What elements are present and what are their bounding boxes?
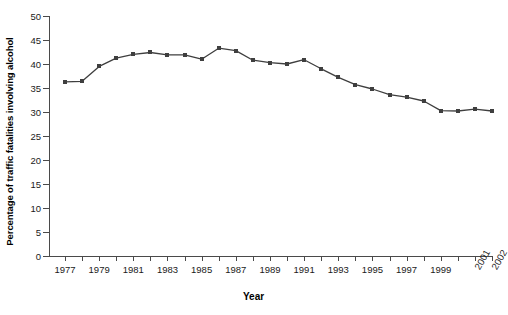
data-point — [268, 61, 272, 65]
x-axis-title: Year — [243, 291, 264, 302]
data-point — [148, 50, 152, 54]
y-axis-tick — [43, 16, 49, 17]
data-point — [439, 109, 443, 113]
y-axis-tick-label: 25 — [5, 131, 41, 142]
y-axis-tick-label: 30 — [5, 107, 41, 118]
x-axis-tick — [372, 256, 373, 261]
x-axis-tick-label: 1981 — [123, 264, 144, 275]
y-axis-tick-label: 35 — [5, 83, 41, 94]
x-axis-tick-label: 1983 — [157, 264, 178, 275]
y-axis-tick-label: 20 — [5, 155, 41, 166]
data-point — [165, 53, 169, 57]
y-axis-tick — [43, 64, 49, 65]
x-axis-tick — [287, 256, 288, 261]
x-axis-tick — [253, 256, 254, 261]
y-axis-tick-label: 50 — [5, 11, 41, 22]
data-point — [114, 56, 118, 60]
data-point — [97, 64, 101, 68]
x-axis-tick-label: 1987 — [225, 264, 246, 275]
data-point — [285, 62, 289, 66]
x-axis-tick — [185, 256, 186, 261]
x-axis-tick-label: 1997 — [396, 264, 417, 275]
x-axis-tick — [150, 256, 151, 261]
y-axis-line — [49, 16, 50, 257]
data-point — [336, 75, 340, 79]
x-axis-tick-label: 1993 — [328, 264, 349, 275]
y-axis-tick — [43, 88, 49, 89]
x-axis-tick-label: 1991 — [294, 264, 315, 275]
x-axis-tick — [321, 256, 322, 261]
data-point — [131, 52, 135, 56]
x-axis-tick — [338, 256, 339, 261]
data-point — [370, 87, 374, 91]
data-point — [422, 99, 426, 103]
x-axis-tick-label: 1977 — [54, 264, 75, 275]
data-point — [319, 67, 323, 71]
data-point — [405, 95, 409, 99]
x-axis-tick — [441, 256, 442, 261]
x-axis-tick — [133, 256, 134, 261]
x-axis-tick — [304, 256, 305, 261]
y-axis-tick — [43, 208, 49, 209]
x-axis-tick — [202, 256, 203, 261]
y-axis-tick-label: 5 — [5, 227, 41, 238]
data-point — [388, 93, 392, 97]
y-axis-tick-label: 15 — [5, 179, 41, 190]
y-axis-tick — [43, 160, 49, 161]
x-axis-tick-label: 1989 — [259, 264, 280, 275]
x-axis-tick — [407, 256, 408, 261]
y-axis-tick — [43, 232, 49, 233]
data-point — [80, 79, 84, 83]
data-point — [353, 83, 357, 87]
data-point — [473, 107, 477, 111]
x-axis-tick-label: 1995 — [362, 264, 383, 275]
x-axis-tick — [167, 256, 168, 261]
y-axis-tick-label: 0 — [5, 251, 41, 262]
x-axis-tick — [236, 256, 237, 261]
y-axis-tick-labels: 05101520253035404550 — [0, 0, 41, 315]
x-axis-tick-label: 2001 — [472, 248, 492, 272]
line-chart: Percentage of traffic fatalities involvi… — [0, 0, 508, 315]
data-point — [217, 46, 221, 50]
x-axis-tick-label: 1979 — [89, 264, 110, 275]
y-axis-tick — [43, 112, 49, 113]
y-axis-tick — [43, 40, 49, 41]
data-point — [456, 109, 460, 113]
x-axis-tick-label: 2002 — [489, 248, 508, 272]
x-axis-tick — [116, 256, 117, 261]
y-axis-tick — [43, 136, 49, 137]
y-axis-tick — [43, 256, 49, 257]
x-axis-tick — [82, 256, 83, 261]
data-point — [302, 58, 306, 62]
x-axis-tick — [270, 256, 271, 261]
y-axis-tick — [43, 184, 49, 185]
data-point — [63, 80, 67, 84]
y-axis-tick-label: 10 — [5, 203, 41, 214]
x-axis-tick-label: 1999 — [430, 264, 451, 275]
data-point — [183, 53, 187, 57]
data-point — [200, 57, 204, 61]
x-axis-tick — [99, 256, 100, 261]
x-axis-tick — [390, 256, 391, 261]
y-axis-tick-label: 40 — [5, 59, 41, 70]
y-axis-tick-label: 45 — [5, 35, 41, 46]
x-axis-tick — [355, 256, 356, 261]
data-point — [251, 58, 255, 62]
x-axis-tick-label: 1985 — [191, 264, 212, 275]
x-axis-tick — [219, 256, 220, 261]
data-point — [234, 49, 238, 53]
x-axis-tick — [424, 256, 425, 261]
x-axis-tick — [65, 256, 66, 261]
x-axis-tick — [458, 256, 459, 261]
data-point — [490, 109, 494, 113]
